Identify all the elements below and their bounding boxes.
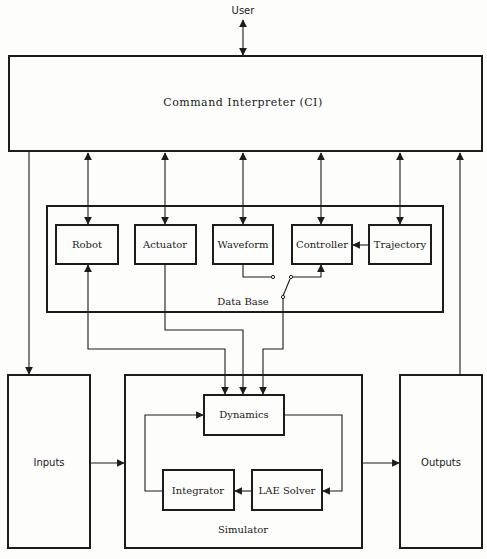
controller-dynamics-line	[263, 299, 283, 394]
actuator-module: Actuator	[135, 225, 196, 264]
outputs-box: Outputs	[400, 375, 482, 548]
dynamics-lae-arrow	[285, 415, 342, 491]
trajectory-label: Trajectory	[374, 239, 427, 250]
diagram-svg: User Command Interpreter (CI) Data Base …	[0, 0, 487, 559]
integrator-block: Integrator	[163, 470, 234, 510]
integrator-dynamics-arrow	[145, 415, 203, 491]
system-block-diagram: User Command Interpreter (CI) Data Base …	[0, 0, 487, 559]
actuator-label: Actuator	[142, 239, 187, 250]
waveform-module: Waveform	[213, 225, 273, 264]
lae-solver-block: LAE Solver	[252, 470, 322, 510]
controller-label: Controller	[296, 239, 348, 250]
switch-pivot	[281, 295, 284, 298]
inputs-box: Inputs	[8, 375, 90, 548]
switch-controller-arrow	[293, 265, 321, 277]
data-base-box: Data Base	[47, 206, 443, 312]
dynamics-block: Dynamics	[204, 395, 284, 435]
trajectory-module: Trajectory	[369, 225, 431, 264]
controller-module: Controller	[292, 225, 352, 264]
command-interpreter-box: Command Interpreter (CI)	[9, 56, 482, 151]
switch-blade	[283, 279, 290, 296]
robot-module: Robot	[56, 225, 118, 264]
integrator-label: Integrator	[172, 485, 225, 496]
outputs-label: Outputs	[421, 457, 461, 468]
switch-contact-controller	[289, 275, 292, 278]
simulator-label: Simulator	[218, 524, 268, 535]
command-interpreter-label: Command Interpreter (CI)	[163, 96, 323, 109]
data-base-label: Data Base	[217, 296, 269, 307]
user-label: User	[232, 5, 256, 16]
waveform-switch-line	[243, 265, 271, 277]
dynamics-label: Dynamics	[219, 409, 268, 420]
simulator-box: Simulator	[125, 375, 362, 548]
robot-label: Robot	[72, 239, 102, 250]
lae-solver-label: LAE Solver	[259, 485, 316, 496]
waveform-label: Waveform	[218, 239, 269, 250]
switch-contact-waveform	[271, 275, 274, 278]
inputs-label: Inputs	[33, 457, 64, 468]
